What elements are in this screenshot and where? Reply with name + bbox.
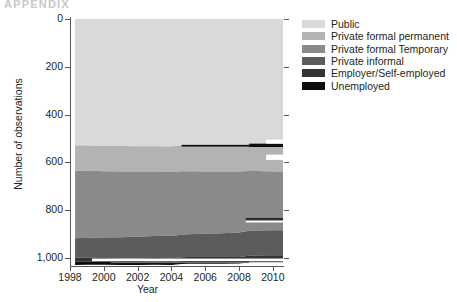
x-axis-title-text: Year <box>137 283 158 295</box>
area-series <box>75 19 283 147</box>
y-axis-line <box>70 17 71 267</box>
x-axis-title: Year <box>0 283 457 295</box>
legend-swatch-icon <box>302 20 325 28</box>
x-tick-label: 2010 <box>253 272 293 283</box>
white-gap-right-low <box>246 220 283 222</box>
legend-label: Private formal Temporary <box>331 43 448 55</box>
y-axis-title: Number of observations <box>12 54 24 214</box>
legend-item[interactable]: Private formal Temporary <box>302 43 454 55</box>
legend-label: Unemployed <box>331 80 390 92</box>
stacked-area-chart: 02004006008001,000 199820002002200420062… <box>0 0 457 302</box>
y-tick-right <box>284 210 289 211</box>
legend-item[interactable]: Private formal permanent <box>302 30 454 42</box>
area-series <box>75 171 283 239</box>
grey-stripe-bottom <box>111 262 250 263</box>
legend-swatch-icon <box>302 45 325 53</box>
y-tick-label: 600 <box>45 156 63 166</box>
unemployed-band-upper-thick <box>249 144 283 147</box>
y-tick-label: 0 <box>57 13 63 23</box>
x-axis-line <box>70 266 284 267</box>
y-tick-right <box>284 67 289 68</box>
y-tick-label: 400 <box>45 109 63 119</box>
legend-label: Employer/Self-employed <box>331 67 445 79</box>
dark-sliver-right <box>246 218 283 220</box>
y-tick-right <box>284 162 289 163</box>
figure-page: APPENDIX 02004006008001,000 199820002002… <box>0 0 457 302</box>
legend-label: Public <box>331 18 360 30</box>
area-series <box>75 144 283 172</box>
legend-item[interactable]: Unemployed <box>302 79 454 91</box>
y-tick-label: 800 <box>45 204 63 214</box>
legend-swatch-icon <box>302 57 325 65</box>
white-gap-right-mid <box>266 155 283 160</box>
y-tick <box>65 67 70 68</box>
white-gap-right-top <box>266 140 283 144</box>
y-tick <box>65 210 70 211</box>
y-tick-right <box>284 258 289 259</box>
legend: PublicPrivate formal permanentPrivate fo… <box>302 18 454 92</box>
plot-svg <box>70 19 283 265</box>
y-tick <box>65 115 70 116</box>
legend-swatch-icon <box>302 82 325 90</box>
y-tick <box>65 258 70 259</box>
y-tick <box>65 162 70 163</box>
y-tick-right <box>284 115 289 116</box>
white-gap-bottom <box>92 259 283 262</box>
legend-label: Private informal <box>331 55 404 67</box>
y-tick-right <box>284 19 289 20</box>
legend-item[interactable]: Private informal <box>302 55 454 67</box>
legend-item[interactable]: Employer/Self-employed <box>302 67 454 79</box>
y-tick <box>65 19 70 20</box>
legend-label: Private formal permanent <box>331 30 449 42</box>
light-stripe-bottom <box>249 262 283 263</box>
legend-item[interactable]: Public <box>302 18 454 30</box>
y-tick-label: 1,000 <box>37 252 63 262</box>
y-tick-label: 200 <box>45 61 63 71</box>
legend-swatch-icon <box>302 69 325 77</box>
plot-area <box>70 19 283 265</box>
legend-swatch-icon <box>302 32 325 40</box>
